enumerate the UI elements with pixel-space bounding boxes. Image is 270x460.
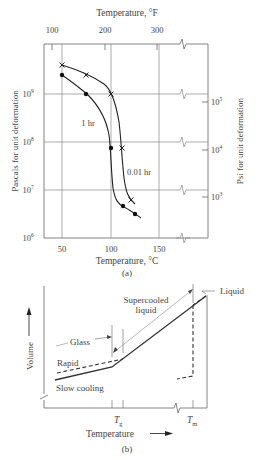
svg-text:Glass: Glass bbox=[70, 337, 90, 347]
svg-text:Volume: Volume bbox=[25, 342, 35, 370]
label-1hr: 1 hr bbox=[81, 118, 95, 128]
supercooled-annotation: Supercooled liquid bbox=[113, 289, 193, 353]
bottom-tick-label: 50 bbox=[58, 244, 67, 254]
liquid-line bbox=[193, 296, 206, 305]
axis-break-left bbox=[40, 395, 48, 399]
top-tick-label: 200 bbox=[99, 25, 112, 35]
volume-axis-label: Volume bbox=[25, 307, 35, 370]
tg-label: Tg bbox=[114, 415, 123, 427]
grid bbox=[44, 44, 208, 243]
rapid-label: Rapid bbox=[57, 358, 79, 368]
svg-text:107: 107 bbox=[22, 184, 34, 195]
bottom-tick-label: 100 bbox=[105, 244, 118, 254]
svg-text:103: 103 bbox=[211, 191, 223, 202]
left-axis-title: Pascals for unit deformation bbox=[10, 90, 20, 192]
svg-text:Supercooled: Supercooled bbox=[124, 295, 169, 305]
figure: Temperature, °F 100 200 300 bbox=[0, 0, 270, 460]
liquid-annotation: Liquid bbox=[202, 286, 244, 296]
x-axis-title-b: Temperature bbox=[86, 429, 134, 439]
label-0-01hr: 0.01 hr bbox=[127, 167, 151, 177]
top-tick-label: 100 bbox=[46, 25, 59, 35]
markers-0-01hr bbox=[60, 63, 134, 203]
top-tick-label: 300 bbox=[151, 25, 164, 35]
ticks-b bbox=[112, 400, 193, 408]
svg-text:108: 108 bbox=[22, 136, 34, 147]
right-ticks bbox=[202, 102, 208, 197]
temperature-arrow-icon bbox=[150, 431, 173, 436]
caption-b: (b) bbox=[122, 444, 133, 454]
chart-b: Volume Tg Tm Temperature (b) Glass bbox=[25, 284, 244, 454]
svg-text:109: 109 bbox=[22, 88, 34, 99]
left-tick-labels: 109 108 107 106 bbox=[22, 88, 34, 243]
top-axis-title: Temperature, °F bbox=[96, 8, 158, 18]
svg-text:104: 104 bbox=[211, 144, 223, 155]
svg-text:Liquid: Liquid bbox=[220, 286, 244, 296]
slow-cooling-label: Slow cooling bbox=[56, 383, 104, 393]
top-ticks bbox=[52, 44, 157, 50]
bottom-axis-title: Temperature, °C bbox=[96, 256, 159, 266]
tm-label: Tm bbox=[187, 415, 197, 427]
svg-text:liquid: liquid bbox=[135, 305, 157, 315]
axes-b bbox=[44, 286, 207, 413]
right-tick-labels: 105 104 103 bbox=[211, 96, 223, 202]
right-axis-title: Psi for unit deformation bbox=[235, 97, 245, 184]
svg-text:106: 106 bbox=[22, 232, 34, 243]
chart-a: Temperature, °F 100 200 300 bbox=[10, 8, 245, 278]
curve-0-01hr bbox=[62, 65, 135, 204]
glass-annotation: Glass bbox=[56, 335, 112, 347]
caption-a: (a) bbox=[122, 268, 132, 278]
svg-text:105: 105 bbox=[211, 96, 223, 107]
bottom-tick-label: 150 bbox=[153, 244, 166, 254]
